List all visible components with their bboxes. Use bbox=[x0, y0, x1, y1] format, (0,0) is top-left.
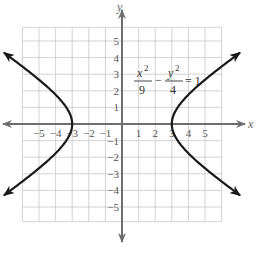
x-axis-label: x bbox=[247, 117, 254, 131]
y-tick-label: −2 bbox=[107, 151, 119, 163]
left-branch-upper bbox=[4, 53, 72, 124]
x-tick-label: −4 bbox=[50, 127, 62, 139]
eq-minus: − bbox=[155, 73, 162, 87]
x-tick-label: 1 bbox=[136, 127, 142, 139]
y-tick-label: −4 bbox=[107, 184, 119, 196]
y-tick-label: −1 bbox=[107, 135, 119, 147]
y-tick-label: 4 bbox=[114, 52, 120, 64]
eq-y-numerator: y bbox=[167, 66, 174, 80]
y-tick-label: −3 bbox=[107, 168, 119, 180]
y-axis-label: y bbox=[116, 0, 123, 14]
hyperbola-graph: −5−4−3−2−11234554321−1−2−3−4−5 x y x 2 9… bbox=[0, 0, 258, 253]
eq-y-exponent: 2 bbox=[175, 63, 180, 73]
x-tick-label: −5 bbox=[33, 127, 45, 139]
y-tick-label: 2 bbox=[114, 85, 120, 97]
x-tick-label: 5 bbox=[202, 127, 208, 139]
x-tick-label: 4 bbox=[186, 127, 192, 139]
eq-x-exponent: 2 bbox=[144, 63, 149, 73]
eq-y-denominator: 4 bbox=[170, 83, 176, 97]
x-tick-label: −2 bbox=[83, 127, 95, 139]
eq-x-denominator: 9 bbox=[139, 83, 145, 97]
right-branch-upper bbox=[172, 53, 240, 124]
x-tick-label: 2 bbox=[152, 127, 158, 139]
y-tick-label: 3 bbox=[114, 68, 120, 80]
eq-x-numerator: x bbox=[136, 66, 143, 80]
y-tick-label: 5 bbox=[114, 35, 120, 47]
y-tick-label: −5 bbox=[107, 201, 119, 213]
y-tick-label: 1 bbox=[114, 101, 120, 113]
eq-rhs: = 1 bbox=[185, 74, 201, 88]
